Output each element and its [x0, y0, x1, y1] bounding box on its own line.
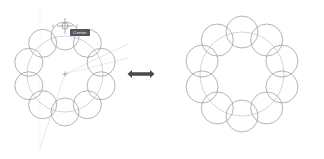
snap-tooltip-label: Center [73, 30, 87, 35]
center-plus-marker [62, 71, 67, 76]
diagram-canvas: Center [0, 0, 324, 159]
snap-tooltip: Center [70, 29, 90, 36]
double-arrow-shape [128, 70, 155, 78]
diagram-svg: Center [0, 0, 324, 159]
left-panel-array-in-progress: Center [15, 6, 128, 155]
arrayed-circles [186, 16, 298, 132]
diagonal-guide-lower [65, 58, 128, 74]
ring-guide-circle [200, 32, 284, 116]
right-panel-array-result [186, 16, 298, 132]
double-arrow-icon [128, 70, 155, 78]
diagonal-guide-tail [40, 74, 65, 148]
